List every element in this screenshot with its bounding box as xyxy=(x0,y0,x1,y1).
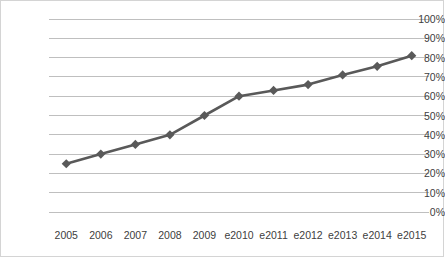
data-point-marker xyxy=(338,70,347,79)
data-point-marker xyxy=(96,150,105,159)
series-line xyxy=(66,56,411,164)
data-point-marker xyxy=(407,51,416,60)
data-point-marker xyxy=(269,86,278,95)
chart-plot-area xyxy=(1,1,445,257)
data-point-marker xyxy=(131,140,140,149)
data-point-marker xyxy=(303,80,312,89)
gridlines-group xyxy=(49,19,429,212)
data-point-marker xyxy=(62,159,71,168)
data-point-marker xyxy=(373,62,382,71)
